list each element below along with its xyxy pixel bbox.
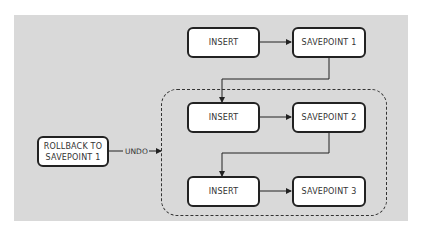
savepoint-3-label: SAVEPOINT 3: [302, 186, 357, 197]
insert-node-2-label: INSERT: [209, 112, 239, 123]
undo-edge-label: UNDO: [124, 147, 149, 156]
savepoint-3-node: SAVEPOINT 3: [292, 176, 366, 207]
insert-node-3-label: INSERT: [209, 186, 239, 197]
savepoint-1-node: SAVEPOINT 1: [292, 27, 366, 58]
rollback-label-line-1: ROLLBACK TO: [44, 141, 102, 152]
insert-node-2: INSERT: [187, 102, 260, 133]
savepoint-2-node: SAVEPOINT 2: [292, 102, 366, 133]
insert-node-1-label: INSERT: [209, 37, 239, 48]
insert-node-1: INSERT: [187, 27, 260, 58]
savepoint-1-label: SAVEPOINT 1: [302, 37, 357, 48]
rollback-label-line-2: SAVEPOINT 1: [46, 152, 101, 163]
rollback-node: ROLLBACK TO SAVEPOINT 1: [37, 136, 109, 167]
insert-node-3: INSERT: [187, 176, 260, 207]
savepoint-2-label: SAVEPOINT 2: [302, 112, 357, 123]
